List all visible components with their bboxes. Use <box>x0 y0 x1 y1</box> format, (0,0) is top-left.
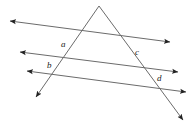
angle-label-a: a <box>61 40 66 49</box>
middle-parallel-line <box>20 52 178 72</box>
angle-label-c: c <box>135 48 139 57</box>
right-transversal <box>99 6 183 120</box>
geometry-canvas <box>0 0 194 127</box>
lines-group <box>10 6 186 120</box>
geometry-diagram: a c b d <box>0 0 194 127</box>
angle-label-d: d <box>157 74 162 83</box>
angle-label-b: b <box>47 61 52 70</box>
upper-parallel-line <box>10 21 170 42</box>
lower-parallel-line <box>27 71 186 92</box>
left-transversal <box>36 6 99 97</box>
